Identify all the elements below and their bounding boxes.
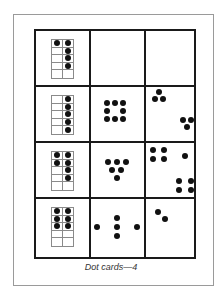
dot-icon	[104, 108, 110, 114]
empty-box	[63, 238, 74, 246]
dot-icon	[94, 224, 100, 230]
empty-box	[52, 104, 63, 112]
filled-box-dot-icon	[63, 216, 74, 224]
filled-box-dot-icon	[63, 111, 74, 119]
filled-box-dot-icon	[63, 55, 74, 63]
empty-box	[52, 175, 63, 183]
dot-icon	[188, 117, 194, 123]
filled-box-dot-icon	[52, 40, 63, 48]
right-card	[146, 143, 194, 199]
empty-box	[63, 231, 74, 239]
filled-box-dot-icon	[63, 126, 74, 134]
caption: Dot cards—4	[0, 262, 222, 272]
filled-box-dot-icon	[52, 160, 63, 168]
dot-icon	[118, 167, 124, 173]
dot-icon	[109, 167, 115, 173]
filled-box-dot-icon	[63, 208, 74, 216]
filled-box-dot-icon	[52, 208, 63, 216]
dot-icon	[162, 216, 168, 222]
filled-box-dot-icon	[63, 167, 74, 175]
dot-icon	[120, 116, 126, 122]
dot-icon	[112, 116, 118, 122]
right-card	[146, 87, 194, 143]
empty-box	[52, 238, 63, 246]
dot-icon	[114, 224, 120, 230]
ten-frame	[51, 207, 74, 247]
right-card	[146, 199, 194, 257]
ten-frame-cell	[36, 199, 91, 257]
filled-box-dot-icon	[63, 175, 74, 183]
filled-box-dot-icon	[63, 40, 74, 48]
dot-icon	[152, 96, 158, 102]
dot-icon	[114, 233, 120, 239]
dot-icon	[150, 156, 156, 162]
empty-box	[52, 96, 63, 104]
dot-icon	[180, 117, 186, 123]
dot-icon	[114, 215, 120, 221]
dot-card-grid	[34, 29, 196, 259]
filled-box-dot-icon	[63, 119, 74, 127]
ten-frame-cell	[36, 31, 91, 87]
dot-icon	[182, 153, 188, 159]
ten-frame	[51, 39, 74, 79]
middle-card	[91, 87, 146, 143]
middle-card	[91, 31, 146, 87]
filled-box-dot-icon	[52, 152, 63, 160]
dot-icon	[104, 100, 110, 106]
empty-box	[52, 119, 63, 127]
dot-icon	[161, 147, 167, 153]
empty-box	[52, 231, 63, 239]
filled-box-dot-icon	[63, 63, 74, 71]
dot-icon	[161, 156, 167, 162]
dot-icon	[112, 100, 118, 106]
dot-icon	[114, 175, 120, 181]
ten-frame	[51, 151, 74, 191]
dot-icon	[114, 159, 120, 165]
dot-icon	[176, 187, 182, 193]
empty-box	[52, 70, 63, 78]
filled-box-dot-icon	[63, 223, 74, 231]
dot-icon	[105, 159, 111, 165]
dot-icon	[155, 209, 161, 215]
empty-box	[52, 55, 63, 63]
dot-icon	[156, 89, 162, 95]
dot-icon	[184, 124, 190, 130]
empty-box	[52, 111, 63, 119]
ten-frame	[51, 95, 74, 135]
empty-box	[63, 70, 74, 78]
filled-box-dot-icon	[52, 223, 63, 231]
dot-icon	[134, 224, 140, 230]
empty-box	[52, 182, 63, 190]
ten-frame-cell	[36, 143, 91, 199]
filled-box-dot-icon	[63, 96, 74, 104]
right-card	[146, 31, 194, 87]
empty-box	[52, 63, 63, 71]
dot-icon	[160, 96, 166, 102]
empty-box	[52, 167, 63, 175]
middle-card	[91, 143, 146, 199]
filled-box-dot-icon	[63, 160, 74, 168]
filled-box-dot-icon	[63, 48, 74, 56]
empty-box	[63, 182, 74, 190]
middle-card	[91, 199, 146, 257]
dot-icon	[120, 100, 126, 106]
dot-icon	[150, 147, 156, 153]
dot-icon	[123, 159, 129, 165]
empty-box	[52, 126, 63, 134]
dot-icon	[188, 178, 194, 184]
filled-box-dot-icon	[52, 216, 63, 224]
ten-frame-cell	[36, 87, 91, 143]
filled-box-dot-icon	[63, 152, 74, 160]
empty-box	[52, 48, 63, 56]
dot-icon	[176, 178, 182, 184]
dot-icon	[104, 116, 110, 122]
dot-icon	[188, 187, 194, 193]
dot-icon	[120, 108, 126, 114]
filled-box-dot-icon	[63, 104, 74, 112]
